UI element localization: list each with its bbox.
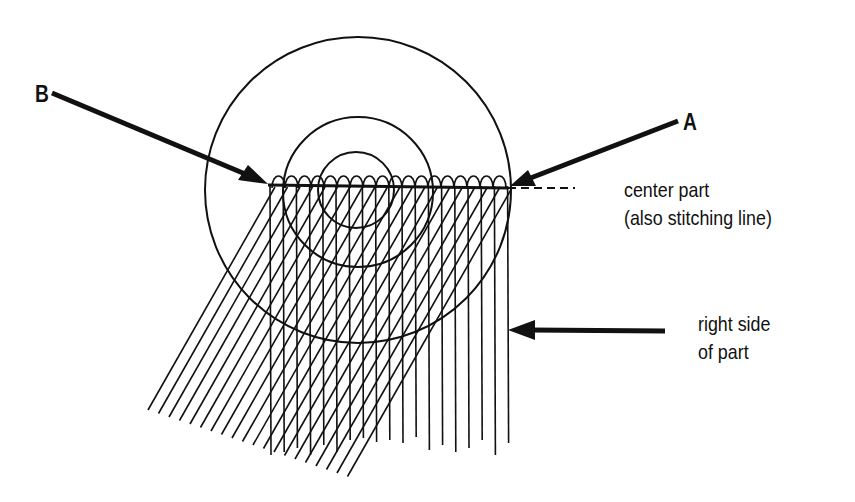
caption-right-side-line2: of part bbox=[698, 338, 770, 366]
caption-right-side-line1: right side bbox=[698, 310, 770, 338]
caption-center-part: center part (also stitching line) bbox=[624, 176, 772, 232]
arrow-right-side bbox=[508, 320, 665, 340]
label-a: A bbox=[683, 108, 697, 136]
arrow-b bbox=[52, 93, 268, 184]
stitching-line bbox=[268, 185, 508, 188]
hair-parting-diagram bbox=[0, 0, 855, 502]
outer-circle bbox=[205, 37, 511, 343]
diagonal-strands bbox=[148, 187, 513, 477]
label-b: B bbox=[35, 80, 49, 108]
caption-center-part-line1: center part bbox=[624, 176, 772, 204]
concentric-circles bbox=[205, 37, 511, 343]
caption-center-part-line2: (also stitching line) bbox=[624, 204, 772, 232]
caption-right-side: right side of part bbox=[698, 310, 770, 366]
